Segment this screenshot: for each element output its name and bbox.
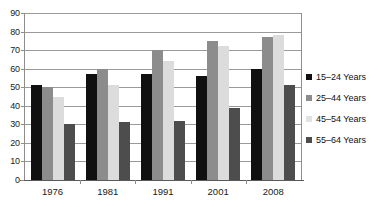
y-axis-tick-label: 80	[10, 27, 20, 36]
y-axis-tick	[21, 69, 24, 70]
x-axis-tick	[191, 180, 192, 184]
bar-1981-series-2[interactable]	[108, 85, 119, 180]
bar-1991-series-0[interactable]	[141, 74, 152, 180]
y-axis-tick-label: 60	[10, 64, 20, 73]
bar-2008-series-2[interactable]	[273, 35, 284, 180]
y-axis-tick	[21, 87, 24, 88]
legend-item-3[interactable]: 55–64 Years	[306, 129, 388, 150]
bar-group-2001	[196, 13, 240, 180]
y-axis-tick-label: 40	[10, 101, 20, 110]
bar-1976-series-0[interactable]	[31, 85, 42, 180]
bar-chart: 0102030405060708090 19761981199120012008…	[0, 0, 388, 207]
legend-item-2[interactable]: 45–54 Years	[306, 108, 388, 129]
legend-item-label: 15–24 Years	[316, 72, 366, 82]
legend-item-label: 25–44 Years	[316, 93, 366, 103]
bar-group-1981	[86, 13, 130, 180]
bar-2001-series-0[interactable]	[196, 76, 207, 180]
x-axis-tick-labels: 19761981199120012008	[25, 186, 301, 202]
x-axis-tick-label: 2008	[247, 186, 299, 202]
y-axis-tick-label: 10	[10, 157, 20, 166]
y-axis-tick	[21, 124, 24, 125]
y-axis-tick-label: 20	[10, 138, 20, 147]
legend-swatch-icon	[306, 137, 312, 143]
bar-groups	[25, 13, 301, 180]
legend-item-label: 55–64 Years	[316, 135, 366, 145]
plot-wrapper: 0102030405060708090 19761981199120012008	[0, 0, 310, 207]
y-axis-tick-label: 50	[10, 83, 20, 92]
bar-2001-series-1[interactable]	[207, 41, 218, 180]
y-axis-tick	[21, 50, 24, 51]
y-axis-tick-label: 90	[10, 9, 20, 18]
x-axis-tick-label: 1991	[137, 186, 189, 202]
legend-swatch-icon	[306, 95, 312, 101]
bar-2001-series-3[interactable]	[229, 108, 240, 180]
bar-1991-series-2[interactable]	[163, 61, 174, 180]
y-axis-tick	[21, 13, 24, 14]
x-axis-tick-label: 1976	[27, 186, 79, 202]
y-axis-tick	[21, 106, 24, 107]
x-axis-tick-label: 2001	[192, 186, 244, 202]
chart-legend: 15–24 Years25–44 Years45–54 Years55–64 Y…	[306, 66, 388, 150]
bar-1976-series-3[interactable]	[64, 124, 75, 180]
bar-1976-series-2[interactable]	[53, 97, 64, 181]
x-axis-tick	[246, 180, 247, 184]
y-axis-tick-label: 70	[10, 46, 20, 55]
bar-1981-series-0[interactable]	[86, 74, 97, 180]
bar-1991-series-1[interactable]	[152, 50, 163, 180]
y-axis-tick-labels: 0102030405060708090	[0, 13, 20, 180]
legend-swatch-icon	[306, 116, 312, 122]
bar-2008-series-3[interactable]	[284, 85, 295, 180]
bar-2008-series-0[interactable]	[251, 69, 262, 180]
legend-item-0[interactable]: 15–24 Years	[306, 66, 388, 87]
x-axis-tick-label: 1981	[82, 186, 134, 202]
x-axis-tick	[135, 180, 136, 184]
bar-1991-series-3[interactable]	[174, 121, 185, 180]
bar-2008-series-1[interactable]	[262, 37, 273, 180]
bar-group-1991	[141, 13, 185, 180]
y-axis-tick	[21, 32, 24, 33]
legend-item-label: 45–54 Years	[316, 114, 366, 124]
y-axis-tick-label: 30	[10, 120, 20, 129]
bar-1981-series-1[interactable]	[97, 69, 108, 180]
bar-1976-series-1[interactable]	[42, 87, 53, 180]
x-axis-tick	[80, 180, 81, 184]
bar-group-1976	[31, 13, 75, 180]
bar-1981-series-3[interactable]	[119, 122, 130, 180]
x-axis-line	[20, 180, 304, 181]
y-axis-tick	[21, 161, 24, 162]
y-axis-tick	[21, 143, 24, 144]
bar-2001-series-2[interactable]	[218, 46, 229, 180]
legend-item-1[interactable]: 25–44 Years	[306, 87, 388, 108]
bar-group-2008	[251, 13, 295, 180]
legend-swatch-icon	[306, 74, 312, 80]
y-axis-tick	[21, 180, 24, 181]
